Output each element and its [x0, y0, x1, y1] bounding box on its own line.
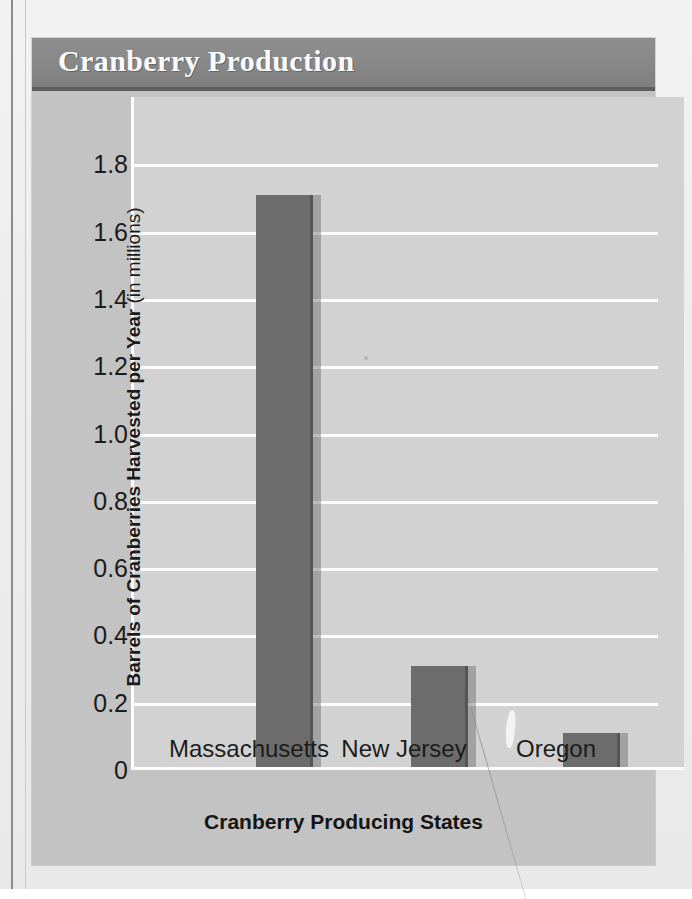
x-tick-label: Oregon: [516, 735, 596, 763]
gridline: [134, 568, 658, 571]
page-gutter-rule-secondary: [25, 0, 26, 889]
y-tick-label: 1.6: [76, 217, 128, 246]
y-tick-label: 0.6: [76, 554, 128, 583]
gridline: [134, 366, 658, 369]
y-tick-label: 0.4: [76, 621, 128, 650]
x-tick-label: Massachusetts: [169, 735, 329, 763]
y-tick-label: 1.0: [76, 419, 128, 448]
x-tick-label: New Jersey: [341, 735, 466, 763]
y-tick-label: 1.4: [76, 284, 128, 313]
scan-artifact-speck: [364, 356, 368, 360]
plot-area: [131, 97, 684, 770]
y-tick-label: 0.8: [76, 486, 128, 515]
gridline: [134, 232, 658, 235]
gridline: [134, 501, 658, 504]
x-axis-tick-labels: MassachusettsNew JerseyOregon: [99, 735, 623, 769]
gridline: [134, 703, 658, 706]
y-tick-label: 1.8: [76, 150, 128, 179]
gridline: [134, 299, 658, 302]
bar-massachusetts: [256, 195, 313, 767]
page-gutter-rule: [11, 0, 13, 889]
gridline: [134, 164, 658, 167]
gridline: [134, 434, 658, 437]
gridline: [134, 635, 658, 638]
y-tick-label: 0.2: [76, 688, 128, 717]
y-tick-label: 1.2: [76, 352, 128, 381]
